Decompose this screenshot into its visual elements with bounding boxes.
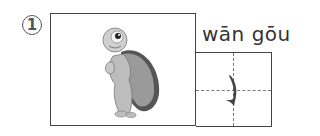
turtle-illustration-icon xyxy=(99,24,163,120)
pinyin-label: wān gōu xyxy=(202,22,291,46)
picture-box xyxy=(50,13,196,126)
item-number-badge: 1 xyxy=(22,15,42,35)
tianzige-writing-grid xyxy=(196,52,272,127)
bent-hook-stroke-icon xyxy=(224,73,242,109)
